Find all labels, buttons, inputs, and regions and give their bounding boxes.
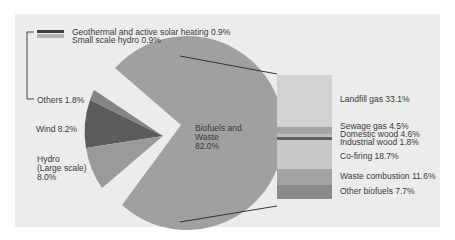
label-landfill: Landfill gas 33.1% [340,95,409,104]
label-other-biofuels: Other biofuels 7.7% [340,187,415,196]
legend-swatch-geothermal [37,30,64,33]
bar-segment-domestic [277,134,332,137]
bar-segment-cofiring [277,140,332,169]
label-others: Others 1.8% [37,96,84,105]
bar-segment-other-biofuels [277,185,332,199]
label-cofiring: Co-firing 18.7% [340,152,399,161]
label-waste: Waste combustion 11.6% [340,172,435,181]
bar-segment-industrial [277,137,332,140]
label-biofuels-line3: 82.0% [195,142,219,151]
others-bracket [27,32,34,99]
bar-segment-sewage [277,127,332,134]
label-wind: Wind 8.2% [36,125,77,134]
bar-segment-waste [277,169,332,185]
legend-swatch-small-hydro [37,34,64,38]
biofuels-stacked-bar [277,75,332,199]
label-small-hydro: Small scale hydro 0.9% [72,36,161,45]
label-industrial: Industrial wood 1.8% [340,138,419,147]
label-hydro-line3: 8.0% [37,173,56,182]
bar-segment-landfill [277,75,332,127]
